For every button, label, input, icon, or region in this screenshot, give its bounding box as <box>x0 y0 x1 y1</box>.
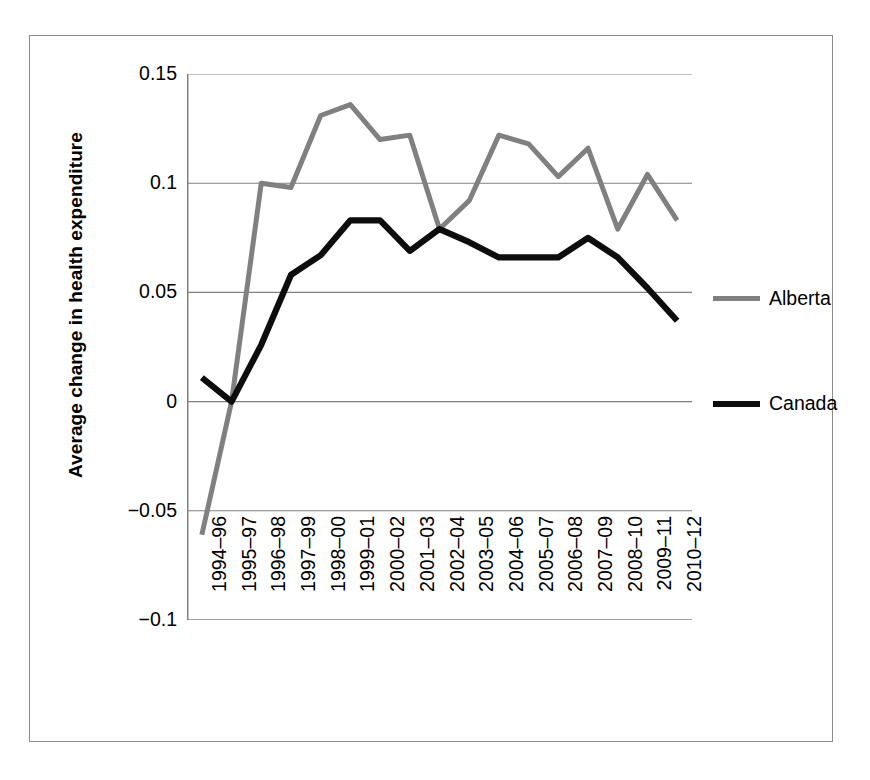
x-tick-label: 2001–03 <box>417 516 437 626</box>
y-tick-label: 0.05 <box>113 282 177 302</box>
figure-frame: Average change in health expenditure 0.1… <box>29 35 833 742</box>
plot-area <box>187 74 692 620</box>
x-tick-label: 1995–97 <box>239 516 259 626</box>
x-tick-label: 2009–11 <box>654 516 674 626</box>
y-tick-label: 0.15 <box>113 64 177 84</box>
x-tick-label: 1997–99 <box>298 516 318 626</box>
legend-label: Canada <box>769 394 837 414</box>
x-tick-label: 2003–05 <box>476 516 496 626</box>
x-tick-label: 2007–09 <box>595 516 615 626</box>
x-tick-label: 2008–10 <box>625 516 645 626</box>
x-tick-label: 1999–01 <box>357 516 377 626</box>
y-axis-tick-labels: 0.150.10.050−0.05−0.1 <box>113 36 177 743</box>
legend-entry: Alberta <box>713 289 831 309</box>
y-tick-label: −0.05 <box>113 501 177 521</box>
legend-label: Alberta <box>769 289 831 309</box>
y-tick-label: 0.1 <box>113 173 177 193</box>
chart-screenshot: Average change in health expenditure 0.1… <box>0 0 870 780</box>
x-tick-label: 2010–12 <box>684 516 704 626</box>
y-tick-label: 0 <box>113 392 177 412</box>
x-tick-label: 1994–96 <box>209 516 229 626</box>
x-tick-label: 2000–02 <box>387 516 407 626</box>
x-tick-label: 2004–06 <box>506 516 526 626</box>
chart-legend: AlbertaCanada <box>713 36 833 743</box>
x-tick-label: 2002–04 <box>447 516 467 626</box>
x-axis-tick-labels: 1994–961995–971996–981997–991998–001999–… <box>187 626 692 746</box>
x-tick-label: 2006–08 <box>565 516 585 626</box>
plot-svg <box>187 74 692 620</box>
series-line-canada <box>202 220 677 401</box>
legend-swatch-alberta <box>713 296 760 301</box>
x-tick-label: 1998–00 <box>328 516 348 626</box>
x-tick-label: 1996–98 <box>268 516 288 626</box>
legend-entry: Canada <box>713 394 837 414</box>
y-axis-title: Average change in health expenditure <box>63 125 89 485</box>
x-tick-label: 2005–07 <box>536 516 556 626</box>
y-tick-label: −0.1 <box>113 610 177 630</box>
legend-swatch-canada <box>713 401 760 407</box>
series-lines <box>202 105 677 535</box>
